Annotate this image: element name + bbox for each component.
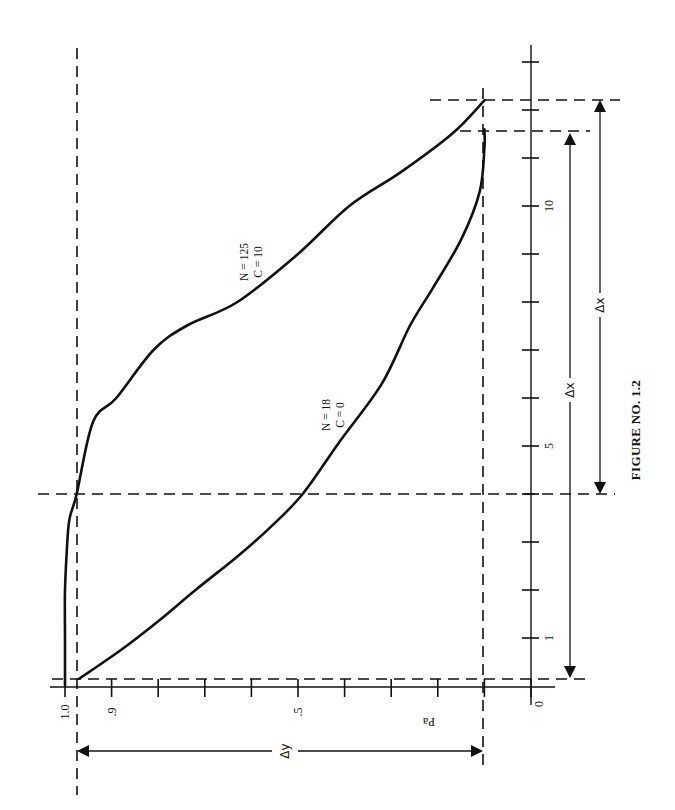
curve-label-n18: N = 18 C = 0 [320, 399, 346, 431]
x-tick-label: 5 [542, 443, 556, 449]
x-axis-tick-labels: 1510 [542, 200, 556, 641]
svg-text:C = 0: C = 0 [334, 402, 346, 428]
figure-canvas: 1.0.9.50 Pa 1510 N = 125 C = 10 N = 18 C… [0, 0, 675, 810]
pa-axis-tick-labels: 1.0.9.50 [58, 701, 546, 720]
delta-x-inner-dimension: Δx [563, 133, 577, 678]
pa-tick-label: 1.0 [58, 705, 72, 720]
delta-x-outer-label: Δx [593, 297, 607, 312]
pa-axis-ticks [65, 679, 531, 697]
figure-caption: FIGURE NO. 1.2 [628, 380, 643, 480]
svg-text:N = 125: N = 125 [238, 243, 250, 281]
svg-text:C = 10: C = 10 [252, 246, 264, 278]
curve-n18-c0 [79, 129, 485, 679]
delta-x-outer-dimension: Δx [593, 100, 607, 494]
x-tick-label: 1 [542, 635, 556, 641]
curve-n125-c10 [65, 100, 485, 686]
delta-y-label: Δy [278, 743, 292, 758]
pa-tick-label: .5 [291, 708, 305, 717]
pa-tick-label: 0 [532, 701, 546, 707]
x-tick-label: 10 [542, 200, 556, 212]
svg-text:N = 18: N = 18 [320, 399, 332, 431]
curve-label-n125: N = 125 C = 10 [238, 243, 264, 281]
delta-y-dimension: Δy [77, 743, 483, 758]
pa-tick-label: .9 [105, 708, 119, 717]
delta-x-inner-label: Δx [563, 382, 577, 397]
pa-axis-label: Pa [422, 715, 435, 729]
